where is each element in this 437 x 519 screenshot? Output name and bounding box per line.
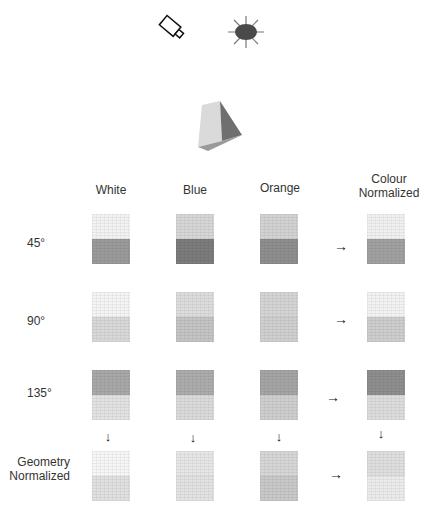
column-header-blue: Blue	[150, 183, 240, 197]
swatch-top-half	[367, 370, 405, 395]
row-label-line2: Normalized	[6, 469, 70, 483]
column-header-colour-normalized: Colour Normalized	[344, 172, 434, 200]
arrow-down-icon: ↓	[276, 430, 283, 443]
swatch-top-half	[92, 292, 130, 317]
swatch-blue	[176, 292, 214, 342]
swatch-bottom-half	[176, 317, 214, 342]
arrow-down-icon: ↓	[105, 430, 112, 443]
swatch-top-half	[92, 370, 130, 395]
swatch-colour-normalized	[367, 370, 405, 420]
swatch-orange	[260, 214, 298, 264]
row-label-135: 135°	[27, 386, 52, 400]
swatch-top-half	[260, 292, 298, 317]
swatch-top-half	[176, 451, 214, 476]
swatch-bottom-half	[92, 476, 130, 501]
swatch-top-half	[367, 214, 405, 239]
swatch-orange	[260, 292, 298, 342]
camera-icon	[155, 12, 191, 46]
swatch-bottom-half	[92, 239, 130, 264]
swatch-top-half	[92, 214, 130, 239]
arrow-right-icon: →	[326, 390, 340, 404]
swatch-bottom-half	[260, 239, 298, 264]
swatch-top-half	[176, 370, 214, 395]
swatch-bottom-half	[260, 317, 298, 342]
swatch-top-half	[176, 292, 214, 317]
swatch-bottom-half	[92, 317, 130, 342]
swatch-colour-normalized	[367, 292, 405, 342]
swatch-white	[92, 292, 130, 342]
swatch-orange	[260, 370, 298, 420]
swatch-orange	[260, 451, 298, 501]
swatch-top-half	[176, 214, 214, 239]
swatch-bottom-half	[367, 476, 405, 501]
swatch-blue	[176, 370, 214, 420]
swatch-bottom-half	[260, 395, 298, 420]
arrow-right-icon: →	[334, 312, 348, 326]
row-label-90: 90°	[27, 314, 45, 328]
swatch-bottom-half	[176, 476, 214, 501]
arrow-down-icon: ↓	[190, 431, 197, 444]
swatch-bottom-half	[92, 395, 130, 420]
swatch-blue	[176, 214, 214, 264]
swatch-white	[92, 451, 130, 501]
column-header-line2: Normalized	[344, 186, 434, 200]
arrow-right-icon: →	[334, 239, 348, 253]
swatch-bottom-half	[367, 395, 405, 420]
column-header-orange: Orange	[235, 181, 325, 195]
swatch-white	[92, 214, 130, 264]
swatch-colour-normalized	[367, 214, 405, 264]
swatch-top-half	[260, 451, 298, 476]
swatch-top-half	[367, 292, 405, 317]
light-source-icon	[226, 14, 266, 50]
swatch-top-half	[260, 214, 298, 239]
column-header-white: White	[66, 183, 156, 197]
column-header-line1: Colour	[344, 172, 434, 186]
swatch-top-half	[260, 370, 298, 395]
swatch-top-half	[367, 451, 405, 476]
swatch-blue	[176, 451, 214, 501]
swatch-bottom-half	[260, 476, 298, 501]
arrow-down-icon: ↓	[378, 427, 385, 440]
swatch-bottom-half	[367, 317, 405, 342]
arrow-right-icon: →	[329, 467, 343, 481]
swatch-bottom-half	[367, 239, 405, 264]
swatch-bottom-half	[176, 239, 214, 264]
row-label-45: 45°	[27, 236, 45, 250]
swatch-top-half	[92, 451, 130, 476]
swatch-bottom-half	[176, 395, 214, 420]
swatch-colour-normalized	[367, 451, 405, 501]
swatch-white	[92, 370, 130, 420]
row-label-line1: Geometry	[6, 455, 70, 469]
row-label-geometry-normalized: Geometry Normalized	[6, 455, 70, 483]
cube-object-icon	[190, 95, 250, 155]
